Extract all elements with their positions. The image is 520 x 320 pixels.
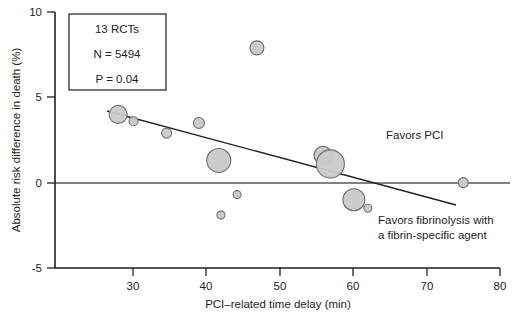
y-tick-label-5: 5 xyxy=(36,91,42,103)
annotation-favors-fibrinolysis-line2: a fibrin-specific agent xyxy=(378,229,487,241)
x-tick-label-60: 60 xyxy=(347,280,360,292)
data-point xyxy=(162,128,172,138)
scatter-plot: 10 5 0 -5 30 40 50 60 70 80 PCI–related … xyxy=(0,0,520,320)
data-point xyxy=(233,191,241,199)
stats-line-p: P = 0.04 xyxy=(96,73,140,85)
y-tick-label-10: 10 xyxy=(29,6,42,18)
data-point xyxy=(129,117,138,126)
data-point xyxy=(217,211,225,219)
x-tick-label-80: 80 xyxy=(494,280,507,292)
y-tick-label-0: 0 xyxy=(36,177,42,189)
x-tick-label-40: 40 xyxy=(200,280,213,292)
stats-line-n: N = 5494 xyxy=(94,48,142,60)
data-point xyxy=(343,189,365,211)
x-tick-label-30: 30 xyxy=(127,280,140,292)
x-tick-label-50: 50 xyxy=(274,280,287,292)
stats-line-rcts: 13 RCTs xyxy=(95,23,139,35)
y-axis-title: Absolute risk difference in death (%) xyxy=(10,48,22,233)
data-point xyxy=(316,150,344,178)
data-point xyxy=(193,117,204,128)
x-axis-ticks xyxy=(133,268,500,276)
regression-line xyxy=(107,111,456,205)
data-point xyxy=(364,204,372,212)
y-axis-ticks xyxy=(47,12,55,268)
x-tick-label-70: 70 xyxy=(421,280,434,292)
data-point xyxy=(458,178,468,188)
x-axis-title: PCI–related time delay (min) xyxy=(205,298,351,310)
y-tick-label-minus5: -5 xyxy=(32,262,42,274)
annotation-favors-fibrinolysis-line1: Favors fibrinolysis with xyxy=(378,214,494,226)
data-point xyxy=(250,41,264,55)
annotation-favors-pci: Favors PCI xyxy=(386,129,444,141)
data-point xyxy=(109,105,127,123)
chart-figure: 10 5 0 -5 30 40 50 60 70 80 PCI–related … xyxy=(0,0,520,320)
data-point xyxy=(207,148,231,172)
